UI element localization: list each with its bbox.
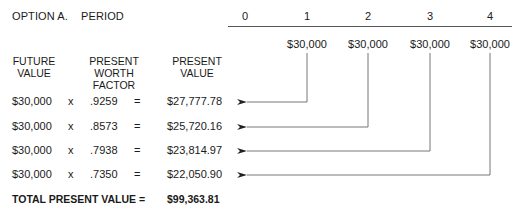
connector-period-4	[247, 53, 490, 175]
timeline-connectors	[0, 0, 520, 217]
connector-period-2	[247, 53, 368, 127]
connector-period-1	[247, 53, 307, 102]
